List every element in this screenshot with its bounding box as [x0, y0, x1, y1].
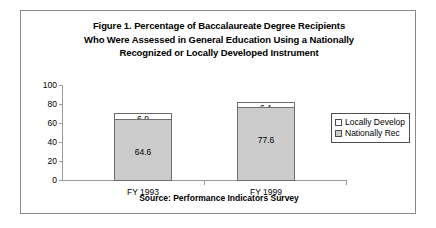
- chart-title-line-1: Figure 1. Percentage of Baccalaureate De…: [35, 19, 403, 33]
- y-axis-tick-label: 100: [29, 81, 57, 90]
- bar-value-label: 64.6: [115, 147, 171, 157]
- bar-group-fy-1993[interactable]: 6.9 64.6: [114, 113, 172, 180]
- y-axis-tick-mark: [59, 123, 62, 124]
- bar-group-fy-1999[interactable]: 6.1 77.6: [237, 102, 295, 180]
- y-axis-tick-mark: [59, 85, 62, 86]
- y-axis-tick-label: 0: [29, 176, 57, 185]
- y-axis-tick-mark: [59, 142, 62, 143]
- legend-label: Nationally Rec: [345, 129, 400, 138]
- bar-segment-nationally-rec-1993[interactable]: 64.6: [114, 119, 172, 181]
- x-axis-tick-mark: [346, 181, 347, 185]
- figure-frame: Figure 1. Percentage of Baccalaureate De…: [20, 10, 416, 214]
- legend-swatch-icon: [335, 130, 342, 137]
- bar-segment-nationally-rec-1999[interactable]: 77.6: [237, 107, 295, 181]
- legend-item-locally-develop[interactable]: Locally Develop: [335, 117, 405, 128]
- y-axis-tick-label: 80: [29, 100, 57, 109]
- source-note: Source: Performance Indicators Survey: [35, 193, 403, 203]
- y-axis-tick-mark: [59, 161, 62, 162]
- chart-title-line-2: Who Were Assessed in General Education U…: [35, 33, 403, 47]
- chart-title: Figure 1. Percentage of Baccalaureate De…: [35, 19, 403, 60]
- bar-value-label: 77.6: [238, 135, 294, 145]
- legend-swatch-icon: [335, 119, 342, 126]
- x-axis-tick-mark: [204, 181, 205, 185]
- y-axis-tick-label: 60: [29, 119, 57, 128]
- legend-item-nationally-rec[interactable]: Nationally Rec: [335, 128, 405, 139]
- plot-area: 100 80 60 40 20 0 6.9 64.6 6.1 77.6: [62, 85, 326, 181]
- y-axis-tick-mark: [59, 180, 62, 181]
- chart-title-line-3: Recognized or Locally Developed Instrume…: [35, 46, 403, 60]
- y-axis-tick-label: 40: [29, 138, 57, 147]
- y-axis-line: [62, 85, 63, 181]
- legend: Locally Develop Nationally Rec: [331, 113, 410, 143]
- legend-label: Locally Develop: [345, 118, 405, 127]
- y-axis-tick-mark: [59, 104, 62, 105]
- y-axis-tick-label: 20: [29, 157, 57, 166]
